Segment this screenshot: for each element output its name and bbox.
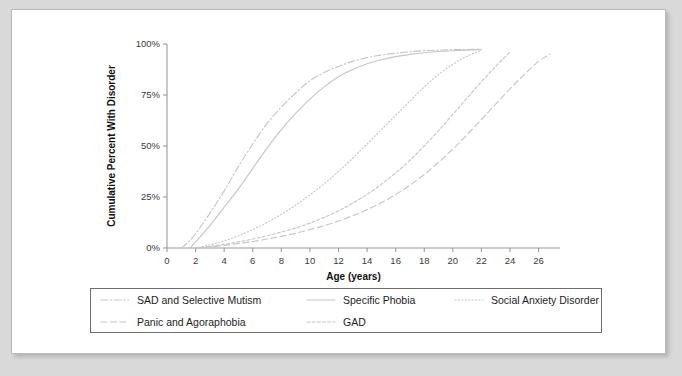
series-line-gad [196,52,510,248]
legend-entry[interactable]: Panic and Agoraphobia [100,316,306,328]
x-tick-label: 10 [305,255,316,266]
x-tick-label: 18 [419,255,430,266]
y-tick-label: 75% [141,89,161,100]
x-axis-title: Age (years) [326,271,380,282]
legend-swatch-dashed-icon [100,317,130,327]
legend-entry[interactable]: SAD and Selective Mutism [100,294,306,306]
x-tick-label: 26 [533,255,544,266]
chart-legend: SAD and Selective MutismSpecific PhobiaS… [90,288,602,333]
y-tick-label: 100% [136,38,161,49]
legend-entry[interactable]: Social Anxiety Disorder [454,294,601,306]
legend-label: GAD [343,316,366,328]
y-tick-label: 0% [146,242,160,253]
legend-grid: SAD and Selective MutismSpecific PhobiaS… [91,289,601,332]
x-tick-label: 22 [476,255,487,266]
x-tick-label: 2 [193,255,198,266]
legend-swatch-finedash-icon [306,317,336,327]
legend-label: Specific Phobia [343,294,415,306]
legend-swatch-solid-icon [306,295,336,305]
x-tick-label: 4 [222,255,227,266]
series-line-panic-and-agoraphobia [196,54,550,248]
series-group [181,49,550,248]
legend-label: Social Anxiety Disorder [491,294,599,306]
x-tick-label: 24 [505,255,516,266]
legend-swatch-dotted-icon [454,295,484,305]
x-tick-label: 12 [333,255,344,266]
x-tick-label: 0 [164,255,169,266]
legend-swatch-dashdot-icon [100,295,130,305]
legend-label: Panic and Agoraphobia [137,316,246,328]
figure-card: 0%25%50%75%100%02468101214161820222426 A… [11,9,666,354]
x-tick-label: 16 [390,255,401,266]
x-tick-label: 8 [279,255,284,266]
legend-entry[interactable]: GAD [306,316,454,328]
series-line-social-anxiety-disorder [196,50,482,248]
y-tick-label: 25% [141,191,161,202]
x-tick-label: 14 [362,255,373,266]
legend-label: SAD and Selective Mutism [137,294,261,306]
y-tick-label: 50% [141,140,161,151]
axes-group: 0%25%50%75%100%02468101214161820222426 [136,38,560,266]
legend-entry[interactable]: Specific Phobia [306,294,454,306]
y-axis-title: Cumulative Percent With Disorder [106,65,117,227]
x-tick-label: 20 [448,255,459,266]
series-line-sad-and-selective-mutism [181,49,481,248]
x-tick-label: 6 [250,255,255,266]
series-line-specific-phobia [190,50,482,248]
